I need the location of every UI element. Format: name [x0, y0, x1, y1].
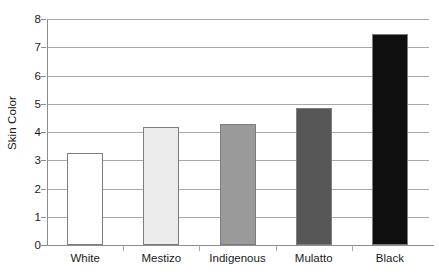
y-tick-mark — [41, 47, 46, 48]
x-axis-separator — [123, 245, 124, 251]
y-tick-mark — [41, 160, 46, 161]
x-tick-label-mestizo: Mestizo — [141, 252, 181, 264]
y-tick-label: 1 — [7, 211, 41, 223]
x-axis-separator — [352, 245, 353, 251]
bar-white — [67, 153, 103, 245]
x-tick-label-mulatto: Mulatto — [295, 252, 333, 264]
x-tick-label-white: White — [70, 252, 99, 264]
y-tick-label: 6 — [7, 70, 41, 82]
x-axis-separator — [199, 245, 200, 251]
x-tick-label-indigenous: Indigenous — [209, 252, 265, 264]
x-tick-label-black: Black — [376, 252, 404, 264]
bar-mestizo — [143, 127, 179, 245]
y-tick-mark — [41, 217, 46, 218]
y-tick-label: 5 — [7, 98, 41, 110]
bars-layer — [47, 19, 428, 245]
y-tick-mark — [41, 76, 46, 77]
x-axis-separator — [276, 245, 277, 251]
x-axis-line — [40, 245, 434, 246]
bar-chart: Skin Color 012345678 WhiteMestizoIndigen… — [0, 0, 439, 276]
bar-mulatto — [296, 108, 332, 245]
y-tick-label: 2 — [7, 183, 41, 195]
bar-indigenous — [220, 124, 256, 245]
bar-black — [372, 34, 408, 245]
y-axis-ticks: 012345678 — [0, 0, 41, 276]
y-tick-label: 4 — [7, 126, 41, 138]
y-tick-mark — [41, 104, 46, 105]
y-tick-mark — [41, 189, 46, 190]
y-tick-label: 3 — [7, 154, 41, 166]
y-tick-label: 8 — [7, 13, 41, 25]
y-tick-label: 7 — [7, 41, 41, 53]
y-tick-mark — [41, 132, 46, 133]
y-tick-mark — [41, 19, 46, 20]
y-tick-label: 0 — [7, 239, 41, 251]
